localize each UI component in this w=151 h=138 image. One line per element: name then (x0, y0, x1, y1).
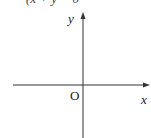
y-axis-arrow-icon (81, 12, 86, 19)
origin-label: O (70, 88, 79, 104)
x-axis-arrow-icon (143, 83, 150, 88)
coordinate-axes (0, 0, 151, 138)
x-axis-label: x (141, 92, 147, 108)
y-axis-label: y (68, 11, 74, 27)
